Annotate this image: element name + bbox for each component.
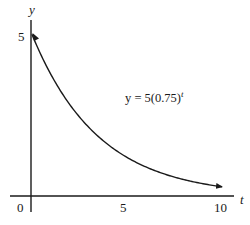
exponential-decay-curve bbox=[32, 34, 222, 186]
x-tick-label-5: 5 bbox=[120, 201, 127, 214]
equation-exponent: t bbox=[181, 89, 184, 99]
x-tick-label-10: 10 bbox=[214, 201, 227, 214]
x-tick-label-0: 0 bbox=[17, 201, 24, 214]
equation-main: y = 5(0.75) bbox=[125, 91, 181, 105]
curve-start-arrow-icon bbox=[33, 33, 40, 41]
equation-annotation: y = 5(0.75)t bbox=[125, 92, 184, 105]
y-axis-label: y bbox=[29, 3, 35, 16]
y-tick-label-5: 5 bbox=[18, 30, 25, 43]
x-axis-label: t bbox=[240, 193, 244, 206]
chart-plot-area bbox=[0, 0, 250, 225]
